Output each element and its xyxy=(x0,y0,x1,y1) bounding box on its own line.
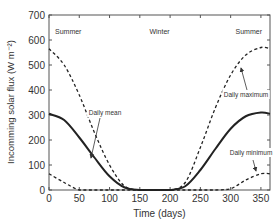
series-daily-minimum xyxy=(49,173,270,190)
arrow-icon xyxy=(91,118,100,158)
x-tick-label: 150 xyxy=(131,193,148,204)
y-tick-label: 600 xyxy=(28,35,45,46)
x-tick-label: 200 xyxy=(162,193,179,204)
x-axis-ticks: 050100150200250300350 xyxy=(46,15,269,204)
annotation-label: Daily mean xyxy=(89,109,122,117)
x-tick-label: 100 xyxy=(101,193,118,204)
season-labels: SummerWinterSummer xyxy=(55,28,263,35)
annotation-label: Daily maximum xyxy=(224,91,268,99)
series-layer xyxy=(49,47,270,190)
plot-frame xyxy=(49,15,270,190)
y-tick-label: 400 xyxy=(28,85,45,96)
x-tick-label: 0 xyxy=(46,193,52,204)
y-tick-label: 500 xyxy=(28,60,45,71)
y-tick-label: 0 xyxy=(39,185,45,196)
x-tick-label: 50 xyxy=(74,193,86,204)
y-tick-label: 100 xyxy=(28,160,45,171)
y-tick-label: 200 xyxy=(28,135,45,146)
y-axis-ticks: 0100200300400500600700 xyxy=(28,10,270,196)
y-tick-label: 300 xyxy=(28,110,45,121)
season-label: Summer xyxy=(55,28,82,35)
series-daily-maximum xyxy=(49,47,270,190)
y-axis-label: Incomming solar flux (W m⁻²) xyxy=(5,40,16,164)
solar-flux-chart: 0100200300400500600700 05010015020025030… xyxy=(0,0,280,224)
annotation-label: Daily minimum xyxy=(230,149,273,157)
y-tick-label: 700 xyxy=(28,10,45,21)
x-tick-label: 300 xyxy=(222,193,239,204)
x-tick-label: 250 xyxy=(192,193,209,204)
arrow-icon xyxy=(253,160,256,171)
x-tick-label: 350 xyxy=(253,193,270,204)
season-label: Winter xyxy=(149,28,170,35)
annotations: Daily meanDaily maximumDaily minimum xyxy=(87,68,274,171)
x-axis-label: Time (days) xyxy=(133,208,185,219)
season-label: Summer xyxy=(236,28,263,35)
arrow-icon xyxy=(241,68,247,90)
